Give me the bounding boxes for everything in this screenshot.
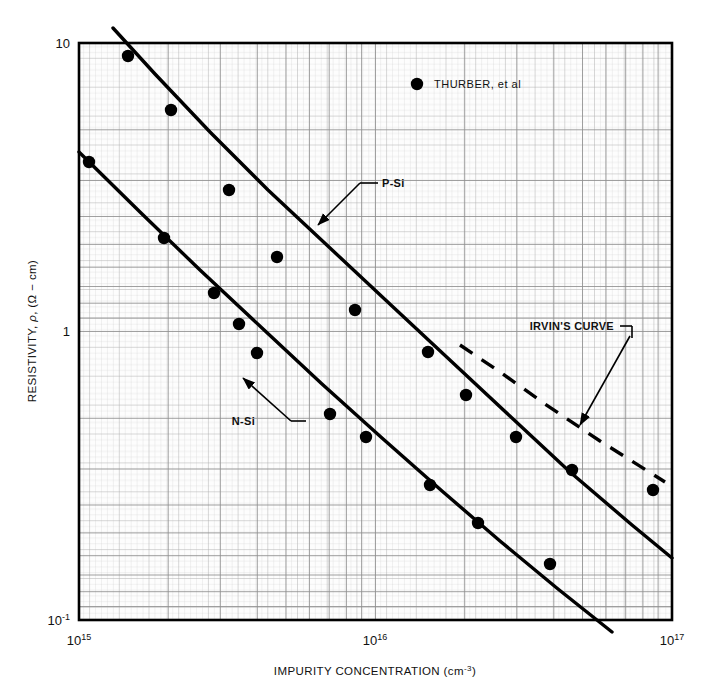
y-tick-0.1: 10-1: [48, 612, 70, 628]
data-point: [83, 156, 95, 168]
x-tick-1e17: 1017: [660, 632, 684, 648]
data-point: [122, 50, 134, 62]
x-tick-1e15: 1015: [67, 632, 91, 648]
data-point: [360, 431, 372, 443]
data-point: [165, 104, 177, 116]
data-point: [510, 431, 522, 443]
data-point: [158, 232, 170, 244]
annotation-irvins-curve-label: IRVIN'S CURVE: [530, 320, 614, 332]
x-tick-1e16: 1016: [363, 632, 387, 648]
y-axis-ticks: 10 1 10-1: [48, 36, 70, 628]
data-point: [460, 389, 472, 401]
y-tick-1: 1: [63, 324, 70, 339]
data-point: [223, 184, 235, 196]
data-point: [544, 558, 556, 570]
data-point: [208, 287, 220, 299]
data-point: [422, 346, 434, 358]
y-axis-title: RESISTIVITY, ρ, (Ω − cm): [26, 260, 38, 403]
legend-marker-thurber: [411, 78, 423, 90]
legend-label-thurber: THURBER, et al: [434, 78, 521, 90]
data-point: [233, 318, 245, 330]
data-point: [647, 484, 659, 496]
resistivity-vs-impurity-chart: P-Si N-Si IRVIN'S CURVE THURBER, et al 1…: [0, 0, 715, 690]
data-point: [472, 517, 484, 529]
data-point: [251, 347, 263, 359]
chart-svg: P-Si N-Si IRVIN'S CURVE THURBER, et al 1…: [0, 0, 715, 690]
annotation-p-si-label: P-Si: [382, 177, 405, 189]
y-tick-10: 10: [56, 36, 70, 51]
data-point: [271, 251, 283, 263]
x-axis-title: IMPURITY CONCENTRATION (cm-3): [274, 664, 476, 677]
data-point: [324, 408, 336, 420]
data-point: [349, 304, 361, 316]
annotation-n-si-label: N-Si: [232, 415, 255, 427]
data-point: [566, 464, 578, 476]
x-axis-ticks: 1015 1016 1017: [67, 632, 684, 648]
data-point: [424, 479, 436, 491]
